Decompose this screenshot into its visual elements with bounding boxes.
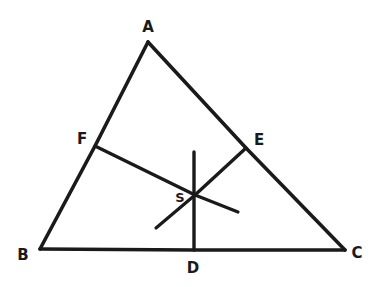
point-label-e: E	[254, 133, 264, 148]
median-extension-fs	[195, 195, 238, 212]
vertex-label-b: B	[17, 248, 28, 263]
point-label-d: D	[187, 261, 199, 276]
median-segment-fs	[95, 146, 195, 195]
centroid-label-s: S	[175, 191, 184, 204]
geometry-figure: A B C D E F S	[0, 0, 374, 287]
median-segment-es	[195, 148, 246, 195]
vertex-label-c: C	[351, 246, 362, 261]
vertex-label-a: A	[142, 20, 154, 35]
figure-canvas	[0, 0, 374, 287]
triangle-side-ac	[148, 42, 345, 250]
point-label-f: F	[77, 132, 87, 147]
